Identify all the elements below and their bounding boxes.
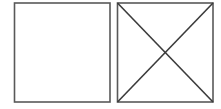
diagram-svg (0, 0, 221, 109)
right-square-group[interactable] (118, 3, 214, 102)
left-square-group[interactable] (15, 3, 111, 102)
diagram-canvas (0, 0, 221, 109)
empty-square[interactable] (15, 3, 111, 102)
